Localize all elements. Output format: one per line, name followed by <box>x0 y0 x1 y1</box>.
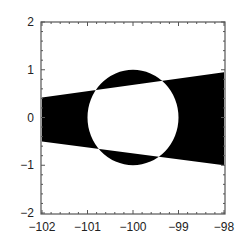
region-plot: −102−101−100−99−98 −2−1012 <box>0 0 244 243</box>
x-axis-tick-labels: −102−101−100−99−98 <box>28 220 234 234</box>
y-tick-label: −1 <box>20 158 34 172</box>
xor-region <box>42 70 224 166</box>
y-tick-label: 1 <box>27 63 34 77</box>
x-tick-label: −101 <box>74 220 101 234</box>
y-tick-label: 2 <box>27 15 34 29</box>
y-tick-label: 0 <box>27 111 34 125</box>
y-axis-tick-labels: −2−1012 <box>20 15 34 220</box>
x-tick-label: −99 <box>168 220 189 234</box>
y-tick-label: −2 <box>20 206 34 220</box>
plot-region-fill <box>42 70 224 166</box>
x-tick-label: −102 <box>28 220 55 234</box>
x-tick-label: −100 <box>119 220 146 234</box>
x-tick-label: −98 <box>214 220 235 234</box>
